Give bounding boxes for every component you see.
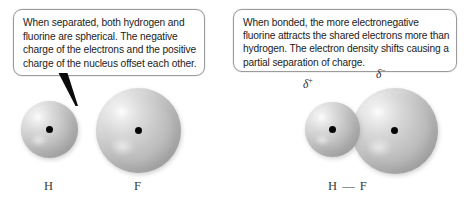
callout-bonded: When bonded, the more electronegative fl… (233, 9, 457, 72)
delta-negative-sign: − (381, 66, 386, 75)
hf-polarity-figure: When separated, both hydrogen and fluori… (0, 0, 464, 203)
fluorine-nucleus-dot-separated (135, 127, 142, 134)
callout-bonded-text: When bonded, the more electronegative fl… (243, 16, 453, 69)
hydrogen-nucleus-dot-bonded (329, 126, 336, 133)
delta-positive-sign: + (308, 76, 313, 85)
fluorine-nucleus-dot-bonded (391, 127, 398, 134)
hydrogen-nucleus-dot-separated (46, 126, 53, 133)
delta-negative-label: δ− (376, 68, 386, 80)
callout-separated: When separated, both hydrogen and fluori… (13, 9, 205, 76)
callout-pointer-left (58, 73, 92, 107)
callout-separated-text: When separated, both hydrogen and fluori… (23, 16, 201, 70)
panel-separated-atoms: When separated, both hydrogen and fluori… (0, 0, 225, 203)
delta-positive-label: δ+ (303, 78, 313, 90)
fluorine-atom-label: F (134, 179, 141, 194)
panel-bonded-molecule: When bonded, the more electronegative fl… (229, 0, 464, 203)
molecule-label-hf: H — F (328, 179, 368, 194)
hydrogen-atom-label: H (44, 179, 53, 194)
